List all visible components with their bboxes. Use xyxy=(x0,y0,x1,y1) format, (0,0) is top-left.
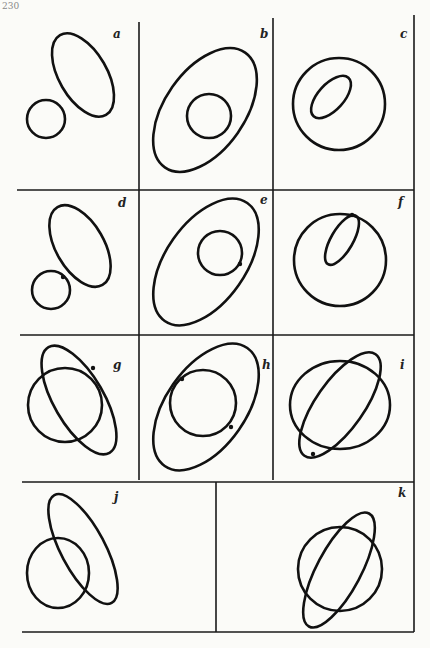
tangent-point xyxy=(238,262,242,266)
panel-a: a xyxy=(27,23,127,138)
circle-shape xyxy=(170,370,236,436)
ellipse-shape xyxy=(37,195,124,297)
ellipse-shape xyxy=(304,69,358,125)
panel-label-i: i xyxy=(400,358,405,372)
circle-shape xyxy=(298,527,382,611)
panel-label-b: b xyxy=(260,27,268,41)
tangent-point xyxy=(91,366,95,370)
circle-shape xyxy=(28,368,102,442)
tangent-point xyxy=(350,213,354,217)
panel-g: g xyxy=(27,335,131,466)
tangent-point xyxy=(311,452,315,456)
circle-shape xyxy=(27,100,65,138)
panel-label-e: e xyxy=(260,193,268,207)
panel-label-k: k xyxy=(398,486,406,500)
ellipse-shape xyxy=(318,210,365,269)
ellipse-shape xyxy=(132,180,280,344)
tangent-point xyxy=(61,275,65,279)
panel-i: i xyxy=(285,340,405,469)
ellipse-shape xyxy=(27,335,131,466)
ellipse-shape xyxy=(132,325,280,489)
ellipse-circle-configurations-figure: 230 a b c d e xyxy=(0,0,430,648)
panel-b: b xyxy=(132,27,278,190)
panel-label-g: g xyxy=(113,358,121,372)
panel-h: h xyxy=(132,325,280,489)
tangent-point xyxy=(229,425,233,429)
panel-j: j xyxy=(27,485,131,613)
ellipse-shape xyxy=(290,503,389,637)
tangent-point xyxy=(180,377,184,381)
panel-label-j: j xyxy=(112,490,119,504)
panel-f: f xyxy=(294,195,405,306)
circle-shape xyxy=(293,58,385,150)
panel-label-a: a xyxy=(113,27,121,41)
panel-label-d: d xyxy=(118,196,127,210)
panel-label-h: h xyxy=(262,358,271,372)
panel-label-c: c xyxy=(400,27,408,41)
panel-d: d xyxy=(32,195,127,309)
panel-c: c xyxy=(293,27,408,150)
grid-lines xyxy=(17,15,414,632)
ellipse-shape xyxy=(132,30,278,191)
page-number: 230 xyxy=(2,1,19,11)
circle-shape xyxy=(198,231,242,275)
circle-shape xyxy=(290,361,390,449)
panel-label-f: f xyxy=(397,195,405,209)
circle-shape xyxy=(187,94,231,138)
panel-e: e xyxy=(132,180,280,344)
panel-k: k xyxy=(290,486,407,637)
